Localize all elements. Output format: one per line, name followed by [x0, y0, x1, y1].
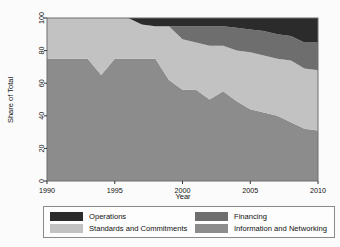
legend-item-financing: Financing [195, 210, 340, 222]
y-tick-label: 100 [37, 12, 46, 24]
legend-swatch-financing [195, 212, 228, 221]
y-tick-label: 0 [37, 179, 46, 183]
legend-swatch-information-and-networking [195, 224, 228, 233]
chart-figure: 02040608010019901995200020052010 Share o… [0, 0, 340, 247]
legend-item-operations: Operations [50, 210, 195, 222]
legend-swatch-operations [50, 212, 83, 221]
plot-areas [47, 18, 318, 181]
y-tick-label: 20 [37, 144, 46, 152]
y-tick-label: 60 [37, 79, 46, 87]
legend-item-information-and-networking: Information and Networking [195, 222, 340, 234]
legend-label-standards-and-commitments: Standards and Commitments [89, 224, 187, 233]
x-tick-label: 2005 [242, 186, 258, 195]
y-tick-label: 40 [37, 112, 46, 120]
x-tick-label: 1990 [39, 186, 55, 195]
legend-swatch-standards-and-commitments [50, 224, 83, 233]
x-tick-label: 1995 [107, 186, 123, 195]
chart-legend: Operations Financing Standards and Commi… [43, 206, 335, 238]
x-axis-label: Year [175, 192, 191, 201]
y-axis-label: Share of Total [6, 77, 15, 123]
x-tick-label: 2010 [310, 186, 326, 195]
legend-label-financing: Financing [234, 212, 267, 221]
legend-item-standards-and-commitments: Standards and Commitments [50, 222, 195, 234]
y-tick-label: 80 [37, 47, 46, 55]
legend-label-operations: Operations [89, 212, 126, 221]
legend-label-information-and-networking: Information and Networking [234, 224, 327, 233]
